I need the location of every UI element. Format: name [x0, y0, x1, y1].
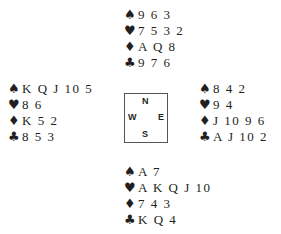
- north-spades: ♠9 6 3: [124, 7, 184, 23]
- compass-box: N W E S: [124, 93, 168, 143]
- compass-west: W: [128, 112, 137, 122]
- west-clubs: ♣8 5 3: [8, 129, 93, 145]
- heart-icon: ♥: [124, 23, 138, 39]
- north-hearts: ♥7 5 3 2: [124, 23, 184, 39]
- diamond-icon: ♦: [199, 113, 213, 129]
- heart-icon: ♥: [124, 180, 138, 196]
- club-icon: ♣: [124, 55, 138, 71]
- south-clubs: ♣K Q 4: [124, 212, 212, 228]
- south-diamonds: ♦7 4 3: [124, 196, 212, 212]
- spade-icon: ♠: [199, 81, 213, 97]
- compass-north: N: [142, 96, 149, 106]
- compass-east: E: [158, 112, 164, 122]
- south-spades: ♠A 7: [124, 164, 212, 180]
- club-icon: ♣: [124, 212, 138, 228]
- east-spades: ♠8 4 2: [199, 81, 268, 97]
- west-hand: ♠K Q J 10 5 ♥8 6 ♦K 5 2 ♣8 5 3: [8, 81, 93, 145]
- east-clubs: ♣A J 10 2: [199, 129, 268, 145]
- diamond-icon: ♦: [8, 113, 22, 129]
- diamond-icon: ♦: [124, 196, 138, 212]
- club-icon: ♣: [8, 129, 22, 145]
- west-diamonds: ♦K 5 2: [8, 113, 93, 129]
- north-hand: ♠9 6 3 ♥7 5 3 2 ♦A Q 8 ♣9 7 6: [124, 7, 184, 71]
- east-hand: ♠8 4 2 ♥9 4 ♦J 10 9 6 ♣A J 10 2: [199, 81, 268, 145]
- south-hearts: ♥A K Q J 10: [124, 180, 212, 196]
- heart-icon: ♥: [199, 97, 213, 113]
- spade-icon: ♠: [124, 164, 138, 180]
- compass-south: S: [142, 129, 148, 139]
- east-diamonds: ♦J 10 9 6: [199, 113, 268, 129]
- heart-icon: ♥: [8, 97, 22, 113]
- south-hand: ♠A 7 ♥A K Q J 10 ♦7 4 3 ♣K Q 4: [124, 164, 212, 228]
- north-diamonds: ♦A Q 8: [124, 39, 184, 55]
- north-clubs: ♣9 7 6: [124, 55, 184, 71]
- west-spades: ♠K Q J 10 5: [8, 81, 93, 97]
- diamond-icon: ♦: [124, 39, 138, 55]
- west-hearts: ♥8 6: [8, 97, 93, 113]
- club-icon: ♣: [199, 129, 213, 145]
- spade-icon: ♠: [124, 7, 138, 23]
- east-hearts: ♥9 4: [199, 97, 268, 113]
- spade-icon: ♠: [8, 81, 22, 97]
